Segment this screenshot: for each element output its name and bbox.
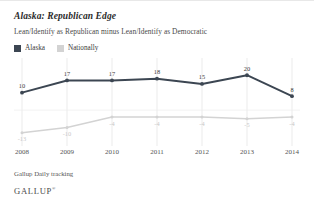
registered-mark-icon: ® xyxy=(52,186,56,191)
gallup-logo: GALLUP® xyxy=(14,186,56,196)
data-point-alaska xyxy=(290,94,294,98)
data-point-nationally xyxy=(246,117,249,120)
data-point-nationally xyxy=(156,116,159,119)
chart-subtitle: Lean/Identify as Republican minus Lean/I… xyxy=(14,27,207,36)
data-point-nationally xyxy=(291,116,294,119)
data-label-nationally: -4 xyxy=(199,120,205,127)
data-point-nationally xyxy=(111,116,114,119)
line-chart-svg: -13-10-4-4-4-5-41017171815208 xyxy=(14,58,300,146)
data-label-nationally: -5 xyxy=(244,121,249,128)
data-label-alaska: 10 xyxy=(19,82,25,89)
legend-swatch-icon-nationally xyxy=(57,45,64,52)
data-label-nationally: -4 xyxy=(109,120,115,127)
data-point-alaska xyxy=(245,73,249,77)
data-label-alaska: 18 xyxy=(154,68,160,75)
data-label-nationally: -10 xyxy=(63,130,72,137)
chart-legend: Alaska Nationally xyxy=(14,44,98,52)
data-point-alaska xyxy=(110,79,114,83)
data-label-nationally: -4 xyxy=(154,120,160,127)
data-point-alaska xyxy=(155,77,159,81)
data-label-alaska: 8 xyxy=(290,86,293,93)
data-point-alaska xyxy=(20,91,24,95)
data-label-nationally: -4 xyxy=(289,120,295,127)
top-divider xyxy=(0,0,314,1)
data-label-alaska: 20 xyxy=(244,65,250,72)
x-tick-2013: 2013 xyxy=(240,148,254,156)
chart-title: Alaska: Republican Edge xyxy=(14,11,116,21)
legend-label-nationally: Nationally xyxy=(68,44,98,52)
x-tick-2010: 2010 xyxy=(105,148,119,156)
x-tick-2014: 2014 xyxy=(285,148,299,156)
data-point-alaska xyxy=(65,79,69,83)
x-tick-2011: 2011 xyxy=(150,148,164,156)
x-tick-2008: 2008 xyxy=(15,148,29,156)
x-tick-2012: 2012 xyxy=(195,148,209,156)
data-point-nationally xyxy=(201,116,204,119)
legend-item-alaska[interactable]: Alaska xyxy=(14,44,45,52)
x-axis-tick-labels: 2008200920102011201220132014 xyxy=(14,148,300,160)
data-label-alaska: 17 xyxy=(109,70,116,77)
chart-plot-area: -13-10-4-4-4-5-41017171815208 xyxy=(14,58,300,146)
source-note: Gallup Daily tracking xyxy=(14,170,73,177)
legend-swatch-icon-alaska xyxy=(14,45,21,52)
data-point-alaska xyxy=(200,82,204,86)
data-label-nationally: -13 xyxy=(18,135,27,142)
data-label-alaska: 17 xyxy=(64,70,71,77)
gallup-chart-card: Alaska: Republican Edge Lean/Identify as… xyxy=(0,0,314,203)
data-point-nationally xyxy=(66,126,69,129)
data-label-alaska: 15 xyxy=(199,73,205,80)
data-point-nationally xyxy=(21,131,24,134)
x-tick-2009: 2009 xyxy=(60,148,74,156)
legend-label-alaska: Alaska xyxy=(25,44,45,52)
legend-item-nationally[interactable]: Nationally xyxy=(57,44,98,52)
gallup-logo-text: GALLUP xyxy=(14,186,52,196)
